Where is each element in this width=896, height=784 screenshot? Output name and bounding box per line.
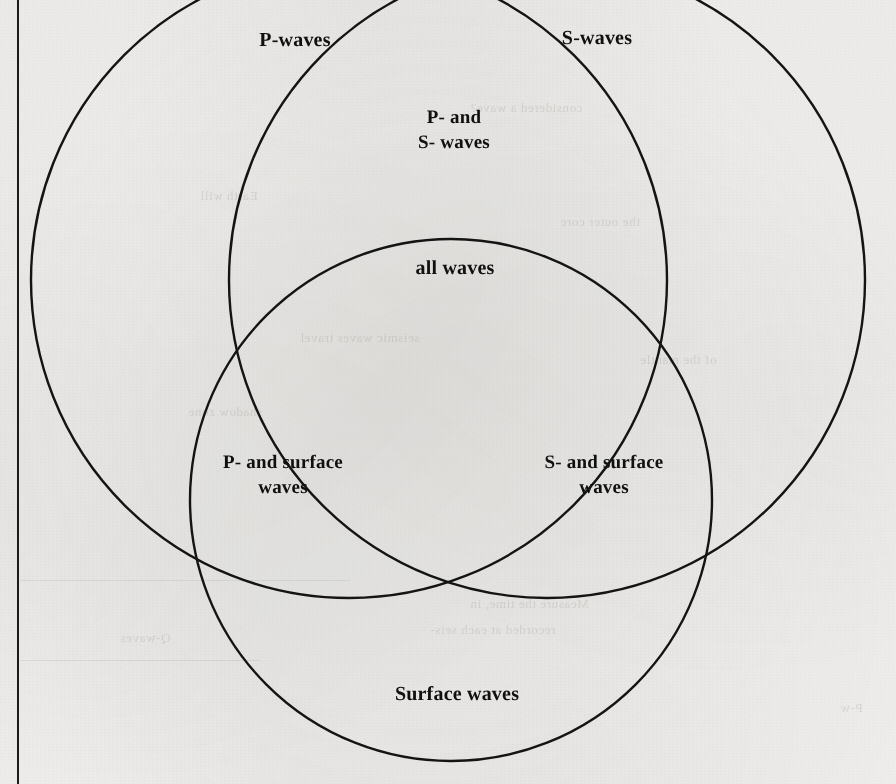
circle-s-waves (229, 0, 865, 598)
venn-label-surface-only: Surface waves (395, 681, 519, 707)
venn-label-all-three: all waves (415, 255, 494, 281)
venn-label-s-only: S-waves (562, 25, 632, 51)
venn-label-p-and-s: P- and S- waves (418, 105, 490, 155)
venn-label-p-only: P-waves (259, 27, 330, 53)
venn-label-p-and-surface: P- and surface waves (223, 450, 343, 500)
circle-p-waves (31, 0, 667, 598)
scanned-page: considered a wave?Earth willthe outer co… (0, 0, 896, 784)
venn-label-s-and-surface: S- and surface waves (545, 450, 664, 500)
